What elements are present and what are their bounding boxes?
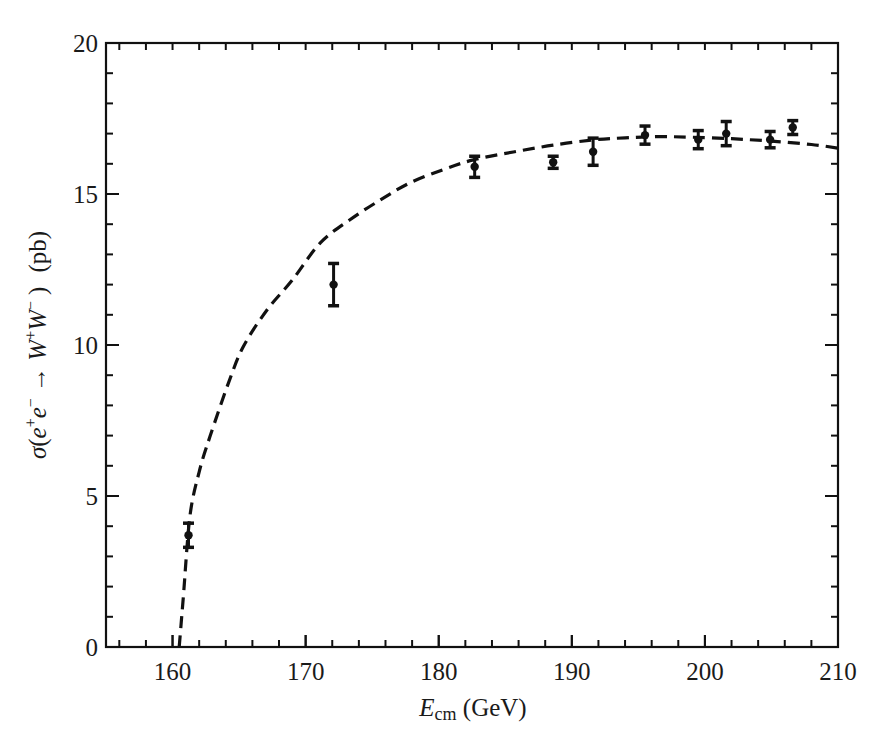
data-point — [765, 131, 776, 147]
y-axis-label: σ(e+e− → W+W−)(pb) — [22, 231, 52, 459]
data-point — [787, 121, 798, 135]
point-marker — [549, 158, 557, 166]
y-axis-W1: W — [24, 338, 51, 361]
y-tick-label: 5 — [86, 483, 99, 510]
y-tick-label: 10 — [73, 332, 98, 359]
x-tick-label: 210 — [819, 658, 857, 685]
x-tick-label: 180 — [420, 658, 458, 685]
data-point — [640, 126, 651, 144]
point-marker — [184, 531, 192, 539]
data-point — [693, 131, 704, 149]
point-marker — [329, 280, 337, 288]
data-points — [183, 121, 798, 548]
data-point — [721, 122, 732, 146]
x-axis-label-unit: (GeV) — [457, 694, 527, 722]
point-marker — [641, 131, 649, 139]
point-marker — [722, 129, 730, 137]
y-axis-paren-close: ) — [24, 287, 52, 295]
point-marker — [589, 148, 597, 156]
data-point — [548, 156, 559, 168]
y-axis-e2: e — [24, 407, 51, 418]
data-point — [588, 138, 599, 165]
x-tick-labels: 160170180190200210 — [154, 658, 857, 685]
y-tick-labels: 05101520 — [73, 30, 98, 661]
x-tick-label: 170 — [287, 658, 325, 685]
y-axis-paren-open: ( — [24, 438, 52, 446]
data-point — [183, 523, 194, 547]
y-axis-arrow: → — [24, 361, 51, 399]
y-tick-label: 0 — [86, 634, 99, 661]
point-marker — [470, 163, 478, 171]
y-axis-W2: W — [24, 308, 51, 331]
point-marker — [694, 135, 702, 143]
point-marker — [789, 123, 797, 131]
x-axis-label: Ecm (GeV) — [418, 694, 526, 724]
theory-curve-dashed — [179, 137, 838, 647]
x-tick-label: 160 — [154, 658, 192, 685]
y-axis-sup-minus: − — [22, 398, 39, 407]
x-tick-label: 190 — [553, 658, 591, 685]
y-axis-unit: (pb) — [24, 231, 52, 273]
x-tick-label: 200 — [686, 658, 724, 685]
y-axis-e1: e — [24, 427, 51, 438]
y-axis-sup-plus2: + — [22, 331, 39, 340]
y-tick-label: 20 — [73, 30, 98, 57]
cross-section-chart: 160170180190200210 05101520 Ecm (GeV) σ(… — [0, 0, 888, 756]
data-point — [328, 263, 339, 305]
y-axis-sup-plus: + — [22, 418, 39, 427]
x-axis-label-sub: cm — [435, 704, 457, 724]
y-tick-label: 15 — [73, 181, 98, 208]
point-marker — [766, 135, 774, 143]
y-axis-sup-minus2: − — [22, 301, 39, 310]
x-axis-label-main: E — [418, 694, 434, 721]
